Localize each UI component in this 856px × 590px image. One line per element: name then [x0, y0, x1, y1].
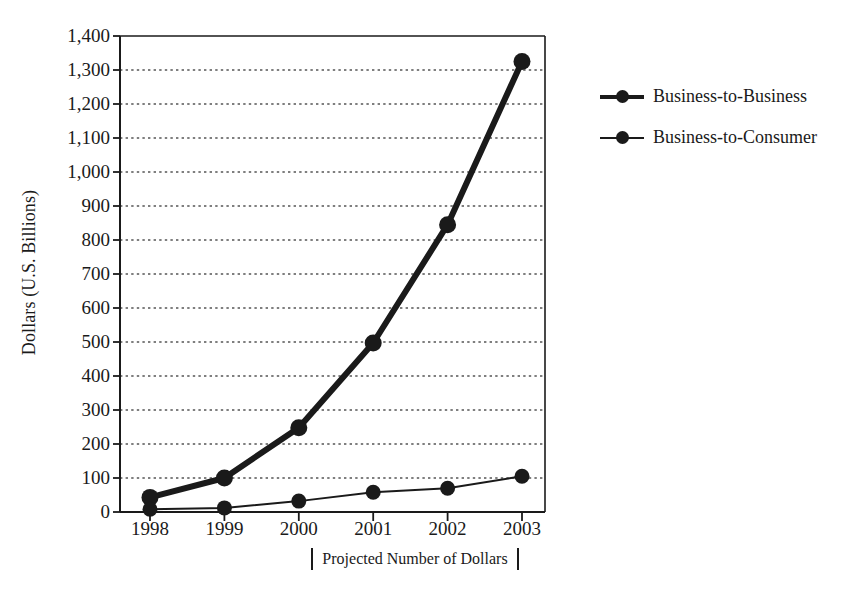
x-axis-caption: Projected Number of Dollars — [322, 550, 507, 568]
caption-bracket-left-icon — [311, 548, 313, 570]
x-axis-caption-group: Projected Number of Dollars — [290, 548, 540, 570]
caption-bracket-right-icon — [517, 548, 519, 570]
legend-label: Business-to-Consumer — [653, 127, 817, 148]
line-chart-figure: Dollars (U.S. Billions) 0100200300400500… — [0, 0, 856, 590]
chart-legend: Business-to-Business Business-to-Consume… — [600, 86, 817, 148]
legend-line-marker-icon — [600, 129, 644, 147]
legend-line-marker-icon — [600, 88, 644, 106]
legend-label: Business-to-Business — [653, 86, 807, 107]
legend-item-business-to-consumer: Business-to-Consumer — [600, 127, 817, 148]
legend-item-business-to-business: Business-to-Business — [600, 86, 817, 107]
x-tick-label: 2003 — [477, 518, 567, 540]
